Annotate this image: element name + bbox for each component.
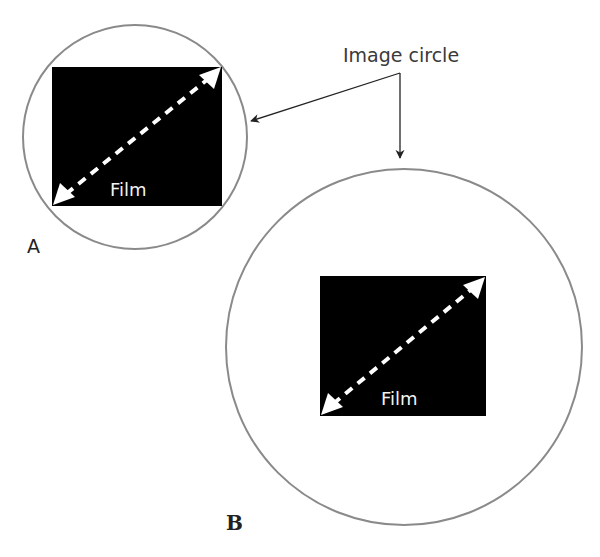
film-label-b: Film: [381, 388, 418, 409]
callout-label: Image circle: [343, 44, 459, 66]
image-circle-diagram: Film A Image circle Film B: [0, 0, 600, 557]
film-label-a: Film: [110, 179, 147, 200]
panel-b: Film B: [226, 169, 582, 535]
panel-label-b: B: [226, 511, 243, 535]
image-circle-callout: Image circle: [251, 44, 459, 158]
panel-label-a: A: [27, 235, 40, 257]
callout-arrow-to-a: [251, 73, 400, 121]
panel-a: Film A: [23, 25, 247, 257]
